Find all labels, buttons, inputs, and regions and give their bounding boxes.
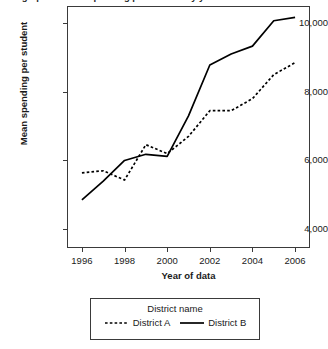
y-tick-label: 6,000 — [270, 155, 328, 165]
legend-swatch-dotted-line-icon — [104, 319, 130, 327]
legend-title: District name — [91, 303, 259, 314]
y-tick-mark — [63, 229, 67, 230]
x-tick-label: 2000 — [147, 255, 187, 266]
y-tick-mark — [63, 92, 67, 93]
x-tick-mark — [82, 248, 83, 252]
x-tick-label: 2006 — [275, 255, 315, 266]
y-tick-mark — [63, 160, 67, 161]
x-axis-title: Year of data — [67, 270, 310, 281]
x-tick-label: 1998 — [105, 255, 145, 266]
y-axis-title: Mean spending per student — [18, 9, 29, 159]
y-tick-label: 8,000 — [270, 87, 328, 97]
legend-swatch-solid-line-icon — [179, 319, 205, 327]
y-tick-mark — [63, 23, 67, 24]
x-tick-label: 1996 — [62, 255, 102, 266]
x-tick-label: 2002 — [190, 255, 230, 266]
x-tick-mark — [125, 248, 126, 252]
x-tick-mark — [295, 248, 296, 252]
x-tick-mark — [167, 248, 168, 252]
x-tick-label: 2004 — [232, 255, 272, 266]
x-tick-mark — [252, 248, 253, 252]
legend-entries: District ADistrict B — [91, 317, 259, 328]
y-tick-label: 4,000 — [270, 224, 328, 234]
legend-label: District A — [133, 317, 170, 328]
series-line-district-b — [82, 17, 295, 200]
legend-entry-district-a: District A — [104, 317, 170, 328]
legend: District name District ADistrict B — [90, 298, 260, 340]
chart-title: Line graph of mean spending per student … — [0, 0, 328, 3]
x-tick-mark — [210, 248, 211, 252]
plot-series-canvas — [67, 6, 310, 248]
series-line-district-a — [82, 63, 295, 180]
legend-entry-district-b: District B — [179, 317, 246, 328]
y-tick-label: 10,000 — [270, 18, 328, 28]
legend-label: District B — [208, 317, 246, 328]
line-chart-figure: Line graph of mean spending per student … — [0, 0, 328, 349]
